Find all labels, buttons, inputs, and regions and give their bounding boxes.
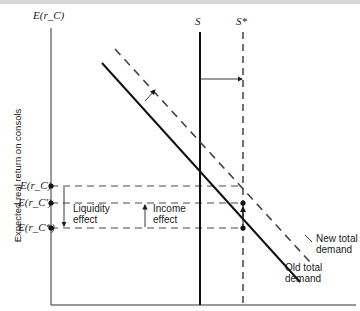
y-axis-title: E(r_C): [33, 10, 64, 21]
liquidity-effect-label-2: effect: [73, 214, 97, 225]
equilibrium-final: [240, 225, 245, 230]
income-effect-label-1: Income: [153, 203, 186, 214]
liquidity-effect-label-1: Liquidity: [73, 203, 110, 214]
rate-label-intermediate: E(r_C'): [18, 197, 52, 208]
new-demand-label-2: demand: [316, 244, 352, 255]
y-axis-label: Expected real return on consols: [12, 81, 23, 271]
demand-shift-arrow: [145, 90, 155, 101]
old-demand-label-2: demand: [285, 273, 321, 284]
new-demand-label-1: New total: [316, 233, 358, 244]
old-demand-label-1: Old total: [285, 262, 322, 273]
rate-label-initial: E(r_C): [20, 180, 51, 191]
new-supply-label: S*: [236, 16, 247, 27]
supply-label: S: [195, 16, 201, 27]
new-demand-pointer: [305, 235, 312, 242]
income-effect-label-2: effect: [153, 214, 177, 225]
new-demand-curve: [115, 49, 310, 262]
equilibrium-intermediate: [240, 200, 245, 205]
rate-label-final: E(r_C*): [18, 222, 55, 233]
